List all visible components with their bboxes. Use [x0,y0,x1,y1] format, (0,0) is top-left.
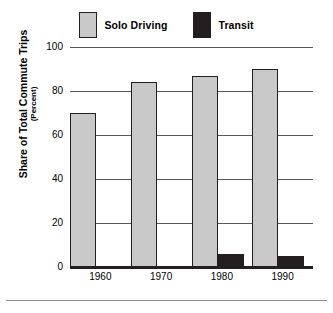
bar-group-1980 [192,47,253,267]
footer-divider [6,300,327,301]
bar-solo-driving-1990 [252,69,278,267]
y-tick-label-100: 100 [29,42,63,52]
legend-label-transit: Transit [218,20,253,31]
legend-entry-transit: Transit [193,12,253,38]
legend-swatch-solo-driving [79,12,97,38]
bar-solo-driving-1970 [131,82,157,267]
legend-swatch-transit [193,12,211,38]
bar-chart-figure: Solo Driving Transit Share of Total Comm… [0,0,333,313]
y-tick-label-20: 20 [29,218,63,228]
x-tick-label-1990: 1990 [252,272,313,290]
y-axis-title-main: Share of Total Commute Trips [18,30,29,179]
x-axis-tick-labels: 1960197019801990 [70,272,313,290]
x-tick-label-1970: 1970 [131,272,192,290]
bar-transit-1980 [218,254,244,267]
plot-area: 020406080100 [70,47,313,267]
x-tick-label-1960: 1960 [70,272,131,290]
y-tick-label-40: 40 [29,174,63,184]
y-axis-title: Share of Total Commute Trips (Percent) [16,14,40,194]
y-tick-label-80: 80 [29,86,63,96]
bar-groups [70,47,313,267]
bar-group-1990 [252,47,313,267]
bar-solo-driving-1960 [70,113,96,267]
bar-group-1960 [70,47,131,267]
legend-entry-solo-driving: Solo Driving [79,12,167,38]
y-tick-label-60: 60 [29,130,63,140]
y-tick-label-0: 0 [29,262,63,272]
x-tick-label-1980: 1980 [192,272,253,290]
bar-transit-1990 [278,256,304,267]
bar-group-1970 [131,47,192,267]
chart-legend: Solo Driving Transit [0,8,333,42]
bar-solo-driving-1980 [192,76,218,267]
legend-label-solo-driving: Solo Driving [104,20,167,31]
